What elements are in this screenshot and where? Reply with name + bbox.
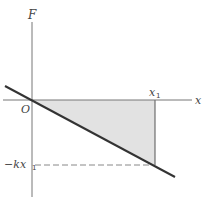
- y-axis-label: F: [27, 8, 37, 22]
- force-displacement-diagram: F x O x 1 −kx 1: [0, 0, 209, 206]
- x1-subscript: 1: [156, 92, 160, 100]
- x1-label: x: [149, 86, 156, 99]
- neg-kx1-label: −kx: [4, 158, 27, 171]
- neg-kx1-subscript: 1: [32, 164, 36, 172]
- x-axis-label: x: [195, 94, 202, 107]
- origin-label: O: [21, 103, 30, 116]
